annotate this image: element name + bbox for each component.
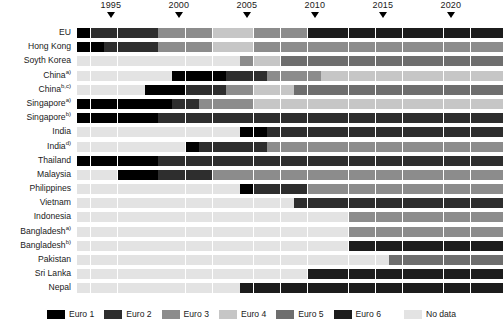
timeline-cell	[240, 255, 253, 265]
timeline-cell	[91, 56, 104, 66]
timeline-cell	[281, 184, 294, 194]
timeline-cell	[335, 42, 348, 52]
timeline-cell	[403, 127, 416, 137]
timeline-cell	[104, 198, 117, 208]
timeline-cell	[308, 127, 321, 137]
timeline-cell	[77, 28, 90, 38]
timeline-cell	[457, 170, 470, 180]
timeline-cell	[281, 255, 294, 265]
timeline-cell	[321, 241, 334, 251]
timeline-cell	[199, 170, 212, 180]
timeline-cell	[91, 113, 104, 123]
timeline-cell	[349, 142, 362, 152]
timeline-cell	[430, 198, 443, 208]
timeline-cell	[430, 170, 443, 180]
timeline-cell	[104, 269, 117, 279]
timeline-cell	[240, 212, 253, 222]
timeline-cell	[444, 71, 457, 81]
timeline-cell	[91, 71, 104, 81]
timeline-cell	[131, 170, 144, 180]
timeline-cell	[91, 227, 104, 237]
timeline-cell	[267, 56, 280, 66]
timeline-cell	[403, 42, 416, 52]
timeline-cell	[131, 71, 144, 81]
timeline-cell	[240, 85, 253, 95]
timeline-cell	[131, 142, 144, 152]
timeline-cell	[226, 99, 239, 109]
legend-label: Euro 5	[298, 309, 323, 319]
row-label-text: Hong Kong	[28, 41, 71, 51]
timeline-cell	[91, 198, 104, 208]
timeline-cell	[158, 127, 171, 137]
timeline-cell	[430, 28, 443, 38]
timeline-cell	[186, 184, 199, 194]
timeline-cell	[240, 127, 253, 137]
timeline-cell	[335, 142, 348, 152]
timeline-cell	[376, 156, 389, 166]
timeline-cell	[444, 269, 457, 279]
timeline-cell	[254, 227, 267, 237]
timeline-cell	[199, 42, 212, 52]
row-label-footnote: a)	[66, 97, 71, 103]
timeline-cell	[199, 283, 212, 293]
timeline-cell	[254, 156, 267, 166]
timeline-cell	[267, 241, 280, 251]
timeline-cell	[484, 184, 497, 194]
timeline-cell	[158, 255, 171, 265]
timeline-cell	[389, 255, 402, 265]
timeline-cell	[91, 283, 104, 293]
row-label-singapore: Singaporeb)	[0, 111, 74, 125]
timeline-cell	[131, 42, 144, 52]
timeline-cell	[172, 184, 185, 194]
timeline-cell	[145, 283, 158, 293]
row-label-india: India	[0, 125, 74, 139]
timeline-cell	[91, 85, 104, 95]
timeline-cell	[349, 85, 362, 95]
year-tick-1995: 1995	[91, 0, 131, 18]
timeline-cell	[376, 241, 389, 251]
timeline-cell	[91, 127, 104, 137]
timeline-cell	[267, 283, 280, 293]
timeline-cell	[281, 28, 294, 38]
timeline-cell	[321, 170, 334, 180]
timeline-cell	[403, 85, 416, 95]
row-label-eu: EU	[0, 26, 74, 40]
timeline-cell	[158, 269, 171, 279]
timeline-cell	[213, 127, 226, 137]
timeline-cell	[321, 227, 334, 237]
timeline-cell	[158, 227, 171, 237]
row-label-text: Singapore	[26, 98, 65, 108]
timeline-cell	[186, 255, 199, 265]
timeline-cell	[104, 56, 117, 66]
timeline-cell	[158, 283, 171, 293]
timeline-cell	[471, 198, 484, 208]
timeline-cell	[186, 85, 199, 95]
timeline-cell	[376, 269, 389, 279]
timeline-cell	[349, 255, 362, 265]
timeline-cell	[389, 283, 402, 293]
timeline-cell	[131, 99, 144, 109]
timeline-cell	[267, 269, 280, 279]
year-tick-2000: 2000	[159, 0, 199, 18]
timeline-cell	[226, 283, 239, 293]
timeline-row: Indiad)	[0, 140, 503, 154]
timeline-cell	[294, 85, 307, 95]
timeline-cell	[321, 156, 334, 166]
timeline-cell	[321, 198, 334, 208]
timeline-cell	[444, 156, 457, 166]
timeline-cell	[267, 127, 280, 137]
timeline-cell	[267, 113, 280, 123]
timeline-cell	[213, 156, 226, 166]
timeline-cell	[226, 156, 239, 166]
timeline-cell	[131, 56, 144, 66]
timeline-cell	[226, 184, 239, 194]
legend-label: Euro 3	[184, 309, 209, 319]
year-marker-arrow-icon	[107, 12, 115, 18]
timeline-cell	[104, 85, 117, 95]
row-label-footnote: d)	[66, 140, 71, 146]
timeline-cell	[77, 142, 90, 152]
timeline-cell	[484, 28, 497, 38]
timeline-cell	[267, 85, 280, 95]
timeline-cell	[430, 99, 443, 109]
timeline-cell	[131, 127, 144, 137]
